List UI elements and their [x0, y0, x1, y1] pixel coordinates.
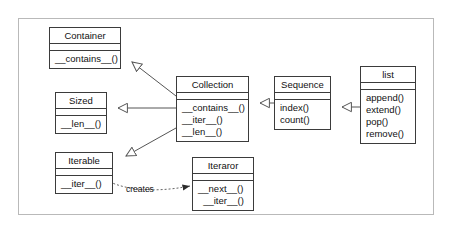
operation: __iter__(): [198, 195, 249, 207]
class-name-iterable: Iterable: [56, 153, 112, 169]
class-box-iterable[interactable]: Iterable __iter__(): [55, 152, 113, 194]
class-operations-iterator: __next__() __iter__(): [193, 181, 253, 210]
class-box-list[interactable]: list append() extend() pop() remove(): [360, 66, 416, 144]
class-operations-sized: __len__(): [56, 116, 106, 133]
class-attributes-collection: [177, 93, 248, 100]
class-box-sized[interactable]: Sized __len__(): [55, 92, 107, 134]
operation: __iter__(): [61, 178, 108, 190]
class-box-collection[interactable]: Collection __contains__() __iter__() __l…: [176, 76, 249, 142]
operation: append(): [366, 92, 411, 104]
operation: __contains__(): [182, 102, 244, 114]
operation: pop(): [366, 116, 411, 128]
class-attributes-iterable: [56, 169, 112, 176]
class-box-iterator[interactable]: Iteraror __next__() __iter__(): [192, 157, 254, 211]
operation: __len__(): [182, 126, 244, 138]
class-box-sequence[interactable]: Sequence index() count(): [274, 76, 331, 130]
operation: remove(): [366, 128, 411, 140]
class-name-iterator: Iteraror: [193, 158, 253, 174]
dependency-label-creates: creates: [126, 184, 154, 194]
class-attributes-sized: [56, 109, 106, 116]
generalization-collection-to-container: [132, 62, 176, 96]
operation: count(): [280, 114, 326, 126]
class-operations-container: __contains__(): [50, 51, 120, 68]
class-name-list: list: [361, 67, 415, 83]
class-name-collection: Collection: [177, 77, 248, 93]
class-attributes-sequence: [275, 93, 330, 100]
class-operations-collection: __contains__() __iter__() __len__(): [177, 100, 248, 141]
class-operations-list: append() extend() pop() remove(): [361, 90, 415, 143]
class-box-container[interactable]: Container __contains__(): [49, 27, 121, 69]
class-operations-iterable: __iter__(): [56, 176, 112, 193]
diagram-canvas: Container __contains__() Sized __len__()…: [0, 0, 453, 236]
class-name-sequence: Sequence: [275, 77, 330, 93]
class-name-sized: Sized: [56, 93, 106, 109]
class-operations-sequence: index() count(): [275, 100, 330, 129]
operation: __iter__(): [182, 114, 244, 126]
class-attributes-container: [50, 44, 120, 51]
operation: __next__(): [198, 183, 249, 195]
generalization-collection-to-iterable: [126, 128, 176, 156]
class-name-container: Container: [50, 28, 120, 44]
operation: extend(): [366, 104, 411, 116]
operation: __contains__(): [55, 53, 116, 65]
class-attributes-iterator: [193, 174, 253, 181]
class-attributes-list: [361, 83, 415, 90]
operation: __len__(): [61, 118, 102, 130]
operation: index(): [280, 102, 326, 114]
